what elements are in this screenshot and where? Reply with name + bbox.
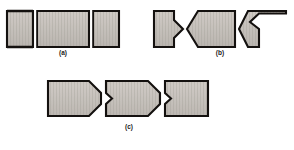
panel-a-label: (a): [4, 50, 122, 57]
panel-a-left-member: [7, 11, 33, 47]
figure-panel-c: (c): [44, 76, 214, 142]
panel-a-right-member: [93, 11, 119, 47]
panel-b-artwork: [150, 6, 290, 52]
panel-c-artwork: [44, 76, 214, 126]
panel-a-artwork: [4, 6, 122, 52]
figure-panel-b: (b): [150, 6, 290, 68]
figure-plate: (a): [0, 0, 294, 150]
panel-c-label: (c): [44, 124, 214, 131]
panel-c-left-member: [48, 81, 101, 116]
panel-b-left-member: [154, 11, 183, 47]
panel-b-center-member: [187, 11, 235, 47]
panel-c-center-member: [106, 81, 160, 116]
panel-b-label: (b): [150, 50, 290, 57]
panel-a-center-member: [37, 11, 89, 47]
figure-panel-a: (a): [4, 6, 122, 68]
panel-b-right-member: [239, 11, 286, 47]
panel-c-right-member: [165, 81, 208, 116]
